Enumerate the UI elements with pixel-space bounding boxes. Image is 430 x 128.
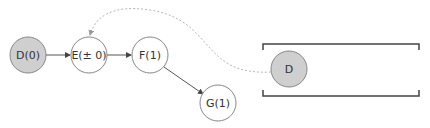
- node-d0-label: D(0): [16, 49, 40, 62]
- node-g: G(1): [200, 85, 236, 121]
- queue-container: D: [263, 44, 419, 96]
- dashed-link-d-to-e: [90, 9, 271, 73]
- node-e: E(± 0): [71, 37, 107, 73]
- queue-top-bracket: [263, 44, 419, 50]
- node-g-label: G(1): [206, 97, 230, 110]
- graph-diagram: D(0) E(± 0) F(1) G(1) D: [0, 0, 430, 128]
- node-d0: D(0): [10, 37, 46, 73]
- edge-f-to-g: [164, 67, 203, 94]
- queue-item-d: D: [271, 51, 307, 87]
- node-e-label: E(± 0): [71, 49, 106, 62]
- node-f: F(1): [132, 37, 168, 73]
- queue-bottom-bracket: [263, 90, 419, 96]
- queue-item-d-label: D: [285, 63, 293, 76]
- node-f-label: F(1): [139, 49, 161, 62]
